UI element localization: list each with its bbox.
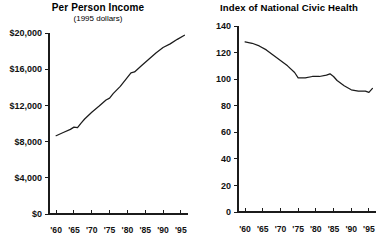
- x-axis-label: '75: [292, 224, 304, 234]
- axis-spine: [49, 33, 188, 214]
- data-series-line: [56, 35, 184, 135]
- chart-plot-left: $20,000$16,000$12,000$8,000$4,000$0'60'6…: [0, 0, 196, 244]
- chart-panel-per-person-income: Per Person Income (1995 dollars) $20,000…: [0, 0, 196, 244]
- y-axis-label: $4,000: [14, 173, 42, 183]
- data-series-line: [245, 42, 372, 92]
- x-axis-label: '85: [328, 224, 340, 234]
- x-axis-label: '60: [50, 225, 62, 235]
- y-axis-label: 60: [221, 127, 231, 137]
- axis-spine: [238, 26, 376, 212]
- y-axis-label: 40: [221, 154, 231, 164]
- x-axis-label: '95: [175, 225, 187, 235]
- y-axis-label: 120: [216, 48, 231, 58]
- x-axis-label: '70: [275, 224, 287, 234]
- figure-container: Per Person Income (1995 dollars) $20,000…: [0, 0, 382, 244]
- chart-panel-civic-health: Index of National Civic Health 140120100…: [196, 0, 382, 244]
- y-axis-label: $8,000: [14, 137, 42, 147]
- x-axis-label: '80: [310, 224, 322, 234]
- x-axis-label: '65: [68, 225, 80, 235]
- x-axis-label: '95: [363, 224, 375, 234]
- x-axis-label: '90: [157, 225, 169, 235]
- y-axis-label: $0: [32, 209, 42, 219]
- y-axis-label: 100: [216, 74, 231, 84]
- y-axis-label: 140: [216, 21, 231, 31]
- y-axis-label: 20: [221, 181, 231, 191]
- y-axis-label: 0: [226, 207, 231, 217]
- x-axis-label: '75: [104, 225, 116, 235]
- x-axis-label: '90: [345, 224, 357, 234]
- x-axis-label: '60: [239, 224, 251, 234]
- y-axis-label: 80: [221, 101, 231, 111]
- y-axis-label: $12,000: [9, 101, 42, 111]
- x-axis-label: '65: [257, 224, 269, 234]
- y-axis-label: $16,000: [9, 64, 42, 74]
- chart-plot-right: 140120100806040200'60'65'70'75'80'85'90'…: [196, 0, 382, 244]
- x-axis-label: '85: [139, 225, 151, 235]
- y-axis-label: $20,000: [9, 28, 42, 38]
- x-axis-label: '70: [86, 225, 98, 235]
- x-axis-label: '80: [122, 225, 134, 235]
